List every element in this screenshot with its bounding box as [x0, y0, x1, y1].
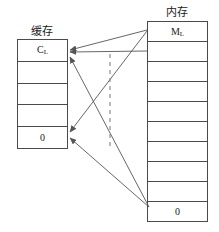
cache-cell-label: 0 [40, 133, 45, 143]
memory-cell: 0 [148, 202, 207, 221]
memory-cell [148, 142, 207, 162]
memory-cell: ML [148, 22, 207, 42]
cache-title-label: 缓存 [17, 25, 67, 37]
memory-cell [148, 182, 207, 202]
memory-cell-label: 0 [175, 207, 180, 217]
cache-cell-label: C [37, 45, 44, 55]
cache-cell [18, 84, 67, 106]
memory-cell-label: M [171, 27, 180, 37]
cache-column: CL0 [17, 39, 68, 149]
arrow-group [70, 30, 149, 207]
memory-top-to-cache-top-upper [70, 30, 147, 50]
cache-cell [18, 105, 67, 127]
cache-memory-diagram: 缓存 内存 CL0 ML0 [0, 0, 219, 232]
memory-cell [148, 162, 207, 182]
cache-cell [18, 62, 67, 84]
memory-top-to-cache-bottom [70, 31, 147, 132]
memory-cell [148, 82, 207, 102]
memory-title-label: 内存 [147, 6, 207, 18]
memory-bottom-to-cache-bottom [70, 138, 149, 207]
memory-cell [148, 42, 207, 62]
memory-cell [148, 122, 207, 142]
memory-top-to-cache-top-lower [70, 51, 147, 52]
memory-bottom-to-cache-top [70, 57, 149, 207]
memory-cell [148, 102, 207, 122]
memory-column: ML0 [147, 21, 208, 222]
cache-cell: 0 [18, 127, 67, 148]
cache-cell: CL [18, 40, 67, 62]
memory-cell [148, 62, 207, 82]
